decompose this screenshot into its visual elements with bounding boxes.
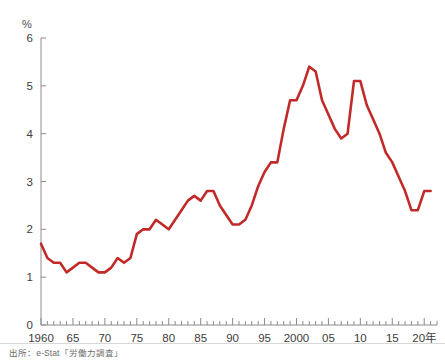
y-tick-label: 4 bbox=[27, 128, 34, 140]
chart-plot-area: 0123456 196065707580859095200005101520年 bbox=[0, 0, 445, 345]
y-tick-label: 3 bbox=[27, 176, 33, 188]
x-axis: 196065707580859095200005101520年 bbox=[28, 318, 437, 344]
y-axis: 0123456 bbox=[27, 32, 46, 331]
y-tick-label: 0 bbox=[27, 319, 33, 331]
footer-divider bbox=[0, 343, 445, 344]
y-tick-label: 2 bbox=[27, 223, 33, 235]
unemployment-rate-chart: % 0123456 196065707580859095200005101520… bbox=[0, 0, 445, 363]
source-note: 出所：e-Stat「労働力調査」 bbox=[9, 346, 123, 358]
y-tick-label: 6 bbox=[27, 32, 33, 44]
series-line-0 bbox=[41, 67, 431, 273]
y-tick-label: 5 bbox=[27, 80, 33, 92]
y-tick-label: 1 bbox=[27, 271, 33, 283]
data-series-group bbox=[41, 67, 431, 273]
